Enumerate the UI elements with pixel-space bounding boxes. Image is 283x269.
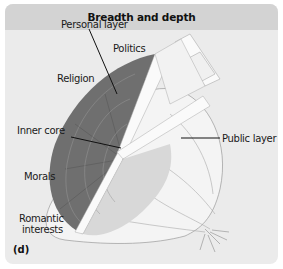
panel-letter: (d) [13,244,29,255]
onion-root [200,229,229,252]
label-public-layer: Public layer [222,133,276,144]
label-politics: Politics [113,43,145,54]
label-religion: Religion [57,73,94,84]
label-romantic: Romantic [19,213,64,224]
diagram-panel: Breadth and depth Personal layer [5,4,278,264]
label-personal-layer: Personal layer [61,19,128,30]
label-interests: interests [22,224,63,235]
label-inner-core: Inner core [17,125,65,136]
label-morals: Morals [24,171,55,182]
